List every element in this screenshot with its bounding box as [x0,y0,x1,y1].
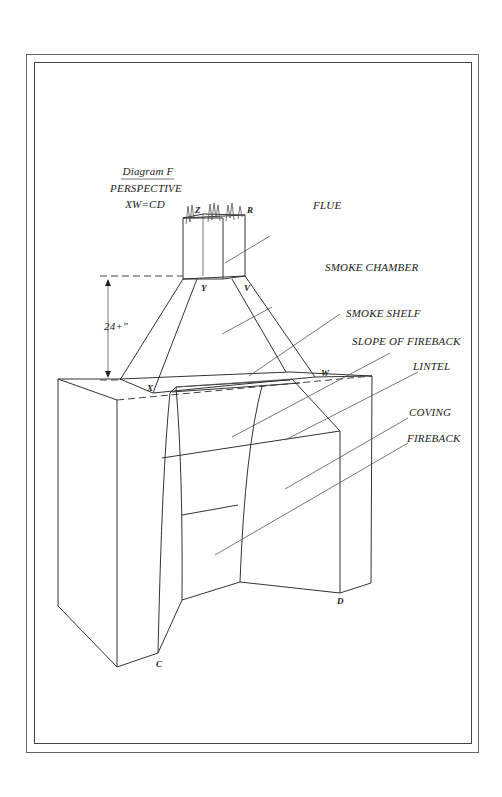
smoke-flow-icon [186,205,194,224]
point-v: V [244,283,251,293]
title-block: Diagram F PERSPECTIVE XW=CD [109,165,182,210]
title-line-2: PERSPECTIVE [109,182,182,194]
fireplace-body [58,372,372,667]
flue-leader [225,236,270,263]
fireplace-diagram: Diagram F PERSPECTIVE XW=CD 24+" [0,0,502,797]
fireback-leader [215,443,408,555]
label-slope-of-fireback: SLOPE OF FIREBACK [352,335,461,347]
label-coving: COVING [409,406,451,418]
title-line-1: Diagram F [122,165,174,177]
slope-fireback-leader [232,353,390,437]
smoke-chamber-leader [222,307,272,334]
point-z: Z [194,205,201,215]
dimension-24: 24+" [100,276,183,380]
point-x: X [146,383,154,393]
callout-labels: FLUE SMOKE CHAMBER SMOKE SHELF SLOPE OF … [312,199,461,444]
smoke-shelf-leader [249,314,340,376]
label-smoke-chamber: SMOKE CHAMBER [325,261,418,273]
label-flue: FLUE [312,199,341,211]
point-r: R [246,205,253,215]
point-y: Y [201,283,208,293]
label-lintel: LINTEL [412,360,450,372]
point-d: D [336,596,344,606]
label-smoke-shelf: SMOKE SHELF [346,307,421,319]
flue-box [183,215,245,279]
dimension-label: 24+" [104,320,128,332]
label-fireback: FIREBACK [406,432,461,444]
point-c: C [156,659,163,669]
point-w: W [321,368,330,378]
title-line-3: XW=CD [124,198,165,210]
